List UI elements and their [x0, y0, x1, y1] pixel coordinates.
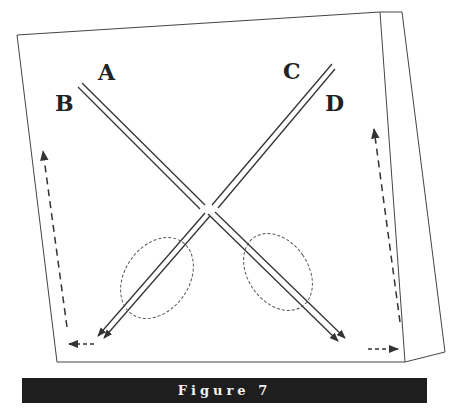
- figure-caption: Figure 7: [178, 383, 271, 398]
- label-a: A: [97, 59, 116, 85]
- label-c: C: [283, 58, 301, 84]
- dashed-ellipse-right: [229, 220, 326, 323]
- label-d: D: [325, 90, 344, 116]
- dashed-ellipse-left: [106, 224, 209, 333]
- tilted-panel: [17, 12, 445, 362]
- dashed-arrow-right-up: [374, 129, 400, 322]
- diagram-canvas: A B C D: [0, 0, 460, 413]
- label-b: B: [55, 90, 74, 116]
- dashed-arrow-left-up: [43, 151, 67, 327]
- figure-caption-bar: Figure 7: [22, 378, 427, 403]
- crossing-double-line-ab: [78, 83, 345, 341]
- crossing-double-line-cd: [98, 64, 335, 338]
